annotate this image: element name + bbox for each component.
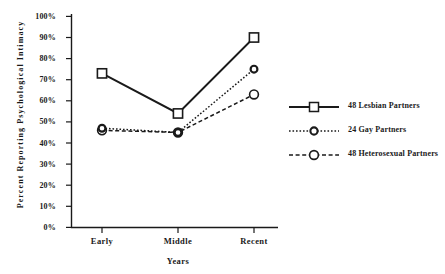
legend-swatch-heterosexual (288, 144, 340, 166)
x-tick-label-early: Early (67, 236, 137, 246)
legend-label-lesbian: 48 Lesbian Partners (348, 101, 420, 110)
series-lesbian (102, 38, 254, 114)
legend-item-gay[interactable]: 24 Gay Partners (288, 120, 444, 144)
data-point (173, 109, 182, 118)
legend-item-lesbian[interactable]: 48 Lesbian Partners (288, 96, 444, 120)
series-gay (102, 69, 254, 132)
legend-swatch-gay (288, 120, 340, 142)
data-point (249, 33, 258, 42)
legend-item-heterosexual[interactable]: 48 Heterosexual Partners (288, 144, 444, 168)
x-tick-label-middle: Middle (143, 236, 213, 246)
x-tick-marks (102, 228, 254, 234)
y-tick-marks (66, 16, 72, 227)
data-point (250, 90, 259, 99)
x-axis-title: Years (138, 256, 218, 266)
data-point (175, 129, 182, 136)
legend-label-heterosexual: 48 Heterosexual Partners (348, 149, 438, 158)
chart-legend: 48 Lesbian Partners 24 Gay Partners 48 H… (288, 96, 444, 168)
legend-swatch-lesbian (288, 96, 340, 118)
data-point (97, 69, 106, 78)
data-point (99, 125, 106, 132)
data-point (251, 66, 258, 73)
x-tick-label-recent: Recent (219, 236, 289, 246)
axis-frame (72, 14, 279, 228)
data-point-markers (97, 33, 258, 137)
line-chart: Percent Reporting Psychological Intimacy… (0, 0, 445, 274)
legend-label-gay: 24 Gay Partners (348, 125, 406, 134)
